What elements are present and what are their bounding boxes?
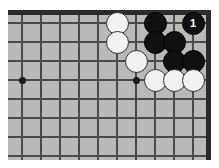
- go-board[interactable]: 1: [8, 10, 211, 160]
- go-diagram-figure: 1: [0, 0, 219, 168]
- move-number-label: 1: [183, 13, 204, 34]
- hoshi-right: [133, 77, 140, 84]
- white-stone-c7r3[interactable]: [125, 50, 148, 73]
- gridline-horizontal-5: [8, 98, 211, 100]
- white-stone-c6r2[interactable]: [106, 31, 129, 54]
- hoshi-left: [19, 77, 26, 84]
- black-stone-move-1[interactable]: 1: [182, 12, 205, 35]
- gridline-horizontal-7: [8, 136, 211, 138]
- gridline-horizontal-8: [8, 155, 211, 157]
- board-edge-right: [206, 10, 211, 160]
- gridline-horizontal-6: [8, 117, 211, 119]
- white-stone-c10r4[interactable]: [182, 69, 205, 92]
